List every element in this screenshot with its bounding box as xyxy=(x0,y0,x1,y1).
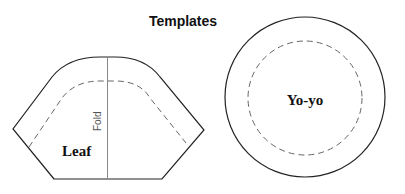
leaf-outline xyxy=(13,57,204,179)
fold-label: Fold xyxy=(92,112,103,131)
templates-diagram: Templates Fold Leaf Yo-yo xyxy=(0,0,405,194)
diagram-title: Templates xyxy=(149,13,217,29)
yoyo-template: Yo-yo xyxy=(225,17,385,177)
leaf-template: Fold Leaf xyxy=(13,57,204,179)
leaf-label: Leaf xyxy=(62,143,92,159)
yoyo-label: Yo-yo xyxy=(287,92,324,108)
